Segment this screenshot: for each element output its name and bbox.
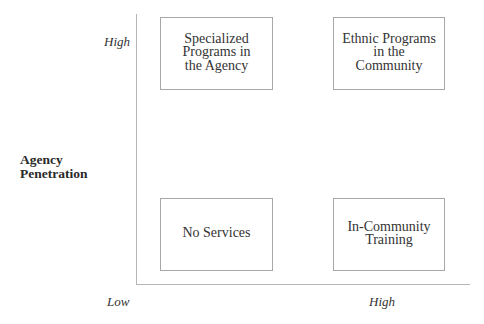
quadrant-bottom-left-text: No Services (182, 226, 250, 240)
y-axis-line (136, 14, 137, 284)
quadrant-top-right-text: Ethnic Programs in the Community (342, 32, 436, 73)
x-axis-low-label: Low (107, 294, 129, 310)
quadrant-bottom-right-text: In-Community Training (347, 220, 430, 247)
y-axis-title: Agency Penetration (20, 153, 87, 181)
quadrant-bottom-right: In-Community Training (333, 198, 445, 271)
x-axis-line (136, 284, 470, 285)
y-axis-high-label: High (104, 34, 130, 50)
quadrant-top-right: Ethnic Programs in the Community (333, 17, 445, 90)
x-axis-high-label: High (369, 294, 395, 310)
quadrant-top-left: Specialized Programs in the Agency (160, 17, 273, 90)
quadrant-bottom-left: No Services (160, 198, 273, 271)
quadrant-top-left-text: Specialized Programs in the Agency (182, 32, 250, 73)
